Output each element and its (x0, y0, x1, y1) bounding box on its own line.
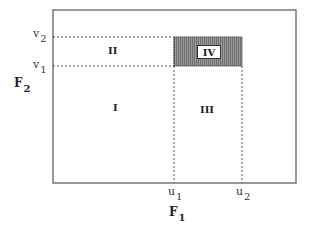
region-ii-label: II (108, 46, 117, 56)
region-iv-label: IV (197, 45, 221, 59)
region-iii-label: III (200, 105, 214, 115)
y-tick-v1: v1 (33, 59, 47, 70)
plot-frame (53, 10, 296, 183)
y-tick-v2: v2 (33, 28, 47, 39)
y-axis-label: F2 (14, 77, 31, 89)
x-axis-label: F1 (169, 206, 186, 218)
x-tick-u2: u2 (236, 186, 250, 197)
region-i-label: I (113, 103, 118, 113)
x-tick-u1: u1 (168, 186, 182, 197)
